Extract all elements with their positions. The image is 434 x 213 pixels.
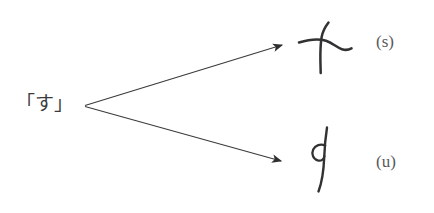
handwritten-cross-stroke-glyph bbox=[299, 23, 352, 74]
branch-label-s: (s) bbox=[376, 32, 394, 52]
handwritten-looped-stroke-glyph bbox=[312, 128, 327, 192]
arrow-to-bottom-glyph bbox=[85, 107, 281, 162]
figure-canvas: 「す」 (s) (u) bbox=[0, 0, 434, 213]
arrow-to-top-glyph bbox=[85, 45, 282, 106]
branch-label-u: (u) bbox=[376, 152, 396, 172]
source-term-label: 「す」 bbox=[14, 88, 74, 118]
